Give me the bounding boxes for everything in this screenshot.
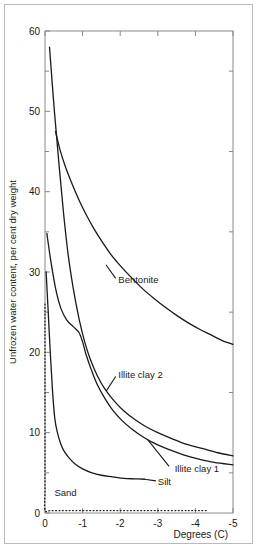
series-curve-illite-clay-1 (47, 233, 233, 464)
y-tick-label: 50 (29, 106, 41, 117)
bentonite-leader (106, 265, 116, 279)
axis-ticks (45, 31, 233, 513)
series-label-silt: Silt (158, 476, 172, 487)
chart-figure: 01020304050600-1-2-3-4-5 BentoniteIllite… (0, 0, 258, 549)
x-tick-label: -5 (229, 518, 238, 529)
silt-leader (145, 479, 156, 481)
plot-frame (45, 31, 233, 513)
series-labels: BentoniteIllite clay 2Illite clay 1SiltS… (54, 274, 219, 498)
series-curve-bentonite (56, 131, 233, 344)
y-tick-label: 10 (29, 427, 41, 438)
y-axis-title: Unfrozen water content, per cent dry wei… (7, 180, 18, 364)
series-label-illite-clay-2: Illite clay 2 (118, 369, 162, 380)
x-tick-label: -3 (153, 518, 162, 529)
series-curve-sand (45, 304, 209, 511)
x-tick-label: -2 (116, 518, 125, 529)
x-tick-label: 0 (42, 518, 48, 529)
y-tick-label: 0 (34, 508, 40, 519)
y-tick-label: 40 (29, 186, 41, 197)
series-label-sand: Sand (54, 487, 76, 498)
x-tick-label: -4 (191, 518, 200, 529)
x-axis-title: Degrees (C) (174, 529, 228, 540)
illite2-leader (106, 376, 115, 390)
y-tick-label: 20 (29, 347, 41, 358)
illite1-leader (147, 439, 169, 466)
unfrozen-water-content-line-chart: 01020304050600-1-2-3-4-5 BentoniteIllite… (0, 0, 258, 549)
series-curve-illite-clay-2 (50, 47, 233, 456)
series-label-illite-clay-1: Illite clay 1 (175, 463, 219, 474)
plot-area-rect (45, 31, 233, 513)
y-tick-label: 60 (29, 26, 41, 37)
y-tick-label: 30 (29, 267, 41, 278)
x-tick-label: -1 (78, 518, 87, 529)
series-label-bentonite: Bentonite (118, 274, 158, 285)
